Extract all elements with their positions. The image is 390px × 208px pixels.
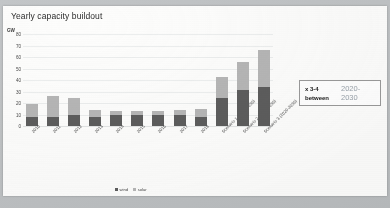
chart-plot-area: 80706050403020100 2010201120122013201420…: [23, 34, 273, 126]
bar-column[interactable]: 2015: [131, 34, 143, 126]
bar-segment-wind[interactable]: [258, 87, 270, 126]
bar-segment-solar[interactable]: [216, 77, 228, 99]
callout-row-1: x 3-4 2020-: [305, 84, 375, 93]
legend-label: wind: [120, 187, 129, 192]
bar-column[interactable]: Scenario 1 (2020-2030): [216, 34, 228, 126]
y-axis-tick-label: 80: [16, 32, 21, 37]
bar-column[interactable]: 2016: [152, 34, 164, 126]
bar-column[interactable]: 2018: [195, 34, 207, 126]
legend-item[interactable]: wind: [115, 187, 128, 192]
legend-label: solar: [138, 187, 147, 192]
bar-column[interactable]: 2012: [68, 34, 80, 126]
bar-segment-wind[interactable]: [237, 90, 249, 126]
y-axis-tick-label: 20: [16, 101, 21, 106]
callout-box: x 3-4 2020- between 2030: [299, 80, 381, 106]
bar-segment-solar[interactable]: [195, 109, 207, 117]
photo-page-background: Yearly capacity buildout GW 807060504030…: [0, 0, 390, 208]
bar-column[interactable]: 2014: [110, 34, 122, 126]
bar-series-container: 201020112012201320142015201620172018Scen…: [23, 34, 273, 126]
legend-swatch-icon: [115, 188, 118, 191]
callout-multiplier-label: x 3-4: [305, 86, 335, 92]
callout-period-start: 2020-: [341, 84, 360, 93]
chart-legend: windsolar: [115, 187, 147, 192]
y-axis-tick-label: 30: [16, 89, 21, 94]
chart-title: Yearly capacity buildout: [11, 11, 102, 21]
bar-segment-solar[interactable]: [89, 110, 101, 117]
y-axis-tick-label: 60: [16, 55, 21, 60]
bar-segment-solar[interactable]: [68, 98, 80, 114]
bar-column[interactable]: 2011: [47, 34, 59, 126]
bar-segment-wind[interactable]: [216, 98, 228, 126]
bar-column[interactable]: 2010: [26, 34, 38, 126]
legend-swatch-icon: [133, 188, 136, 191]
y-axis-tick-label: 0: [18, 124, 21, 129]
legend-item[interactable]: solar: [133, 187, 147, 192]
y-axis-tick-label: 10: [16, 112, 21, 117]
bar-segment-solar[interactable]: [26, 104, 38, 117]
presentation-slide: Yearly capacity buildout GW 807060504030…: [3, 6, 387, 196]
bar-column[interactable]: Scenario 2 (2020-2030): [237, 34, 249, 126]
y-axis-tick-label: 70: [16, 43, 21, 48]
bar-segment-solar[interactable]: [47, 96, 59, 117]
bar-column[interactable]: 2013: [89, 34, 101, 126]
bar-column[interactable]: Scenario 3 (2020-2030): [258, 34, 270, 126]
callout-row-2: between 2030: [305, 93, 375, 102]
callout-period-end: 2030: [341, 93, 358, 102]
y-axis-tick-label: 40: [16, 78, 21, 83]
y-axis-tick-label: 50: [16, 66, 21, 71]
bar-column[interactable]: 2017: [174, 34, 186, 126]
y-axis-unit-label: GW: [7, 28, 15, 33]
callout-between-label: between: [305, 95, 335, 101]
bar-segment-solar[interactable]: [258, 50, 270, 87]
bar-segment-solar[interactable]: [237, 62, 249, 91]
